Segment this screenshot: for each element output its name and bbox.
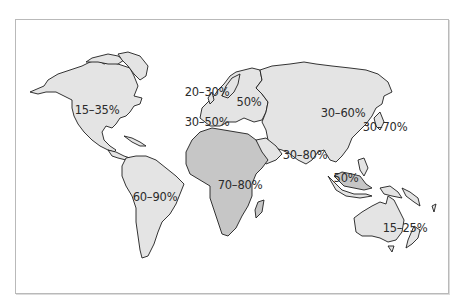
caribbean-shape xyxy=(124,136,146,146)
region-label-africa: 70–80% xyxy=(218,178,263,192)
region-label-southern-europe: 30–50% xyxy=(185,115,230,129)
region-label-southeast-asia: 50% xyxy=(334,171,359,185)
region-label-east-asia: 30–70% xyxy=(363,120,408,134)
region-label-eastern-europe: 50% xyxy=(237,95,262,109)
world-map xyxy=(0,0,457,304)
tasmania-shape xyxy=(388,246,394,252)
new-guinea-shape xyxy=(380,186,402,198)
philippines-shape xyxy=(358,158,368,176)
australia-shape xyxy=(354,196,404,242)
region-label-northern-europe: 20–30% xyxy=(185,85,230,99)
region-label-south-america: 60–90% xyxy=(133,190,178,204)
region-label-north-asia: 30–60% xyxy=(321,106,366,120)
south-america-shape xyxy=(122,156,184,258)
pacific-island-shape xyxy=(432,204,436,212)
pacific-islands-shape xyxy=(402,188,420,206)
madagascar-shape xyxy=(255,200,264,218)
region-label-australia: 15–25% xyxy=(383,221,428,235)
region-label-south-asia: 30–80% xyxy=(283,148,328,162)
region-label-north-america: 15–35% xyxy=(75,103,120,117)
